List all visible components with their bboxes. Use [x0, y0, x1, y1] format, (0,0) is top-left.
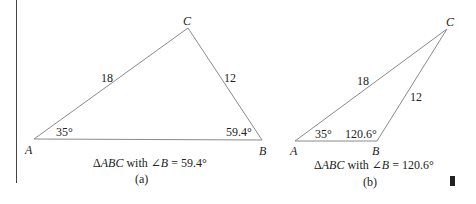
angle-b-value: 59.4° [226, 125, 252, 139]
sublabel-b: (b) [363, 175, 377, 189]
side-ac-length: 18 [101, 71, 113, 85]
triangle-b-shape [295, 29, 447, 141]
sublabel-a: (a) [135, 172, 148, 186]
caption-a: ΔABC with ∠B = 59.4° [93, 156, 207, 170]
vertex-b-label: B [259, 144, 267, 158]
vertex-c-label: C [446, 15, 455, 29]
caption-b: ΔABC with ∠B = 120.6° [314, 158, 434, 172]
side-bc-length: 12 [410, 90, 422, 104]
end-marker-icon [450, 176, 455, 186]
vertex-b-label: B [372, 144, 380, 158]
diagram-canvas: A B C 18 12 35° 59.4° ΔABC with ∠B = 59.… [0, 0, 476, 204]
side-bc-length: 12 [224, 71, 236, 85]
angle-a-value: 35° [56, 125, 73, 139]
vertex-a-label: A [24, 143, 33, 157]
triangle-b: A B C 18 12 35° 120.6° ΔABC with ∠B = 12… [289, 15, 455, 189]
angle-b-value: 120.6° [345, 127, 377, 141]
angle-a-value: 35° [315, 127, 332, 141]
vertex-c-label: C [183, 14, 192, 28]
side-ac-length: 18 [357, 74, 369, 88]
triangle-a: A B C 18 12 35° 59.4° ΔABC with ∠B = 59.… [24, 14, 267, 186]
vertex-a-label: A [289, 144, 298, 158]
